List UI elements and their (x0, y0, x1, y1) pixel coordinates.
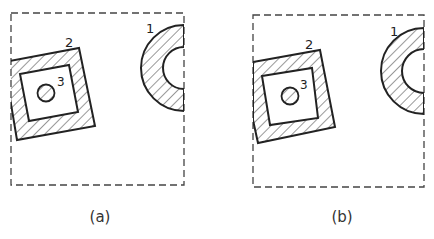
label-3-b: 3 (300, 78, 308, 92)
label-2-a: 2 (65, 35, 73, 50)
arc-shape-1-a (141, 25, 184, 111)
label-2-b: 2 (305, 37, 313, 52)
label-3-a: 3 (57, 75, 65, 89)
label-1-a: 1 (146, 21, 154, 36)
caption-b: (b) (331, 208, 352, 226)
panel-b: 1 2 3 (b) (253, 15, 424, 226)
caption-a: (a) (90, 208, 111, 226)
clipping-diagram: 1 2 3 (a) 1 2 3 (b) (0, 0, 434, 239)
arc-shape-1-b (381, 28, 424, 114)
circle-shape-3-b (282, 88, 299, 105)
panel-a: 1 2 3 (a) (4, 13, 184, 226)
circle-shape-3-a (38, 85, 55, 102)
label-1-b: 1 (390, 24, 398, 39)
